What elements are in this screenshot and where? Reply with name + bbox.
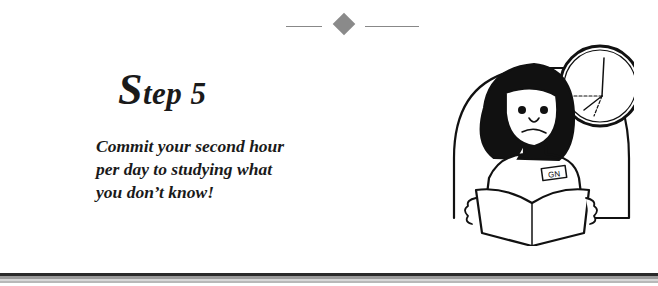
step-instruction: Commit your second hour per day to study… [96,135,336,204]
footer-rule-base [0,281,658,283]
diamond-icon [333,13,356,36]
divider-line-left [286,26,322,27]
step-title-rest: tep 5 [143,76,207,111]
name-badge-text: GN [548,169,561,180]
worried-reader-illustration: GN [424,38,634,246]
step-title: Step 5 [118,64,207,115]
instruction-line: per day to studying what [96,158,336,181]
instruction-line: Commit your second hour [96,135,336,158]
instruction-line: you don’t know! [96,181,336,204]
ornamental-divider [286,22,412,32]
divider-line-right [365,26,419,27]
step-title-initial: S [118,65,143,114]
